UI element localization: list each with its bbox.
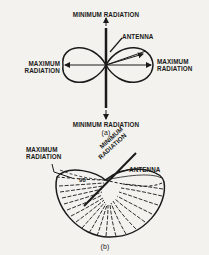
max-radiation-label-b: MAXIMUM RADIATION [26, 146, 61, 160]
right-max-radiation-label: MAXIMUM RADIATION [157, 58, 192, 72]
left-max-radiation-label: MAXIMUM RADIATION [20, 60, 60, 74]
top-min-radiation-label: MINIMUM RADIATION [68, 11, 144, 18]
angle-label: 90° [79, 177, 88, 184]
caption-b: (b) [95, 243, 115, 250]
antenna-label-b: ANTENNA [129, 166, 160, 173]
bottom-min-radiation-label: MINIMUM RADIATION [66, 121, 146, 128]
antenna-element-3d [84, 153, 136, 206]
antenna-label-a: ANTENNA [122, 33, 153, 40]
